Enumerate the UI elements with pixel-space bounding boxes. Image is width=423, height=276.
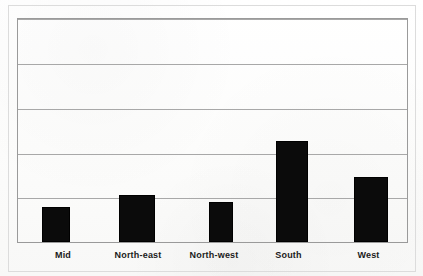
bars-layer [18,19,407,242]
plot-area [17,18,408,243]
bar-chart-figure: Mid North-east North-west South West [0,0,423,276]
x-axis-label-west: West [331,249,406,261]
x-axis-label-mid: Mid [25,249,101,261]
bar-west[interactable] [354,177,388,242]
x-axis-label-north-west: North-west [175,249,253,261]
bar-south[interactable] [276,141,308,242]
x-axis-label-row: Mid North-east North-west South West [17,249,408,269]
bar-mid[interactable] [42,207,70,242]
x-axis-label-south: South [252,249,325,261]
x-axis-label-north-east: North-east [99,249,177,261]
bar-north-east[interactable] [119,195,155,242]
bar-north-west[interactable] [209,202,233,242]
